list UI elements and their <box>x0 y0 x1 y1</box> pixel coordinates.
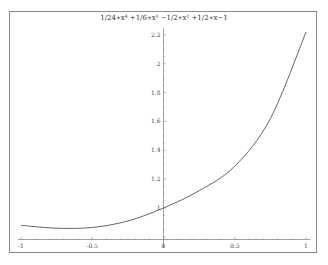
y-tick-label: 2.2 <box>151 31 161 38</box>
plot-area: -1-0.500.5111.21.41.61.822.2 <box>0 0 328 265</box>
x-tick-label: 0.5 <box>230 242 240 249</box>
y-tick-label: 1.2 <box>151 175 161 182</box>
x-tick-label: 1 <box>304 242 308 249</box>
x-tick-label: -0.5 <box>86 242 98 249</box>
tick-labels: -1-0.500.5111.21.41.61.822.2 <box>18 31 308 249</box>
x-tick-label: 0 <box>162 242 166 249</box>
y-tick-label: 1.4 <box>151 146 161 153</box>
y-tick-label: 1.8 <box>151 89 161 96</box>
y-tick-label: 2 <box>157 60 161 67</box>
x-tick-label: -1 <box>18 242 24 249</box>
y-tick-label: 1.6 <box>151 117 161 124</box>
